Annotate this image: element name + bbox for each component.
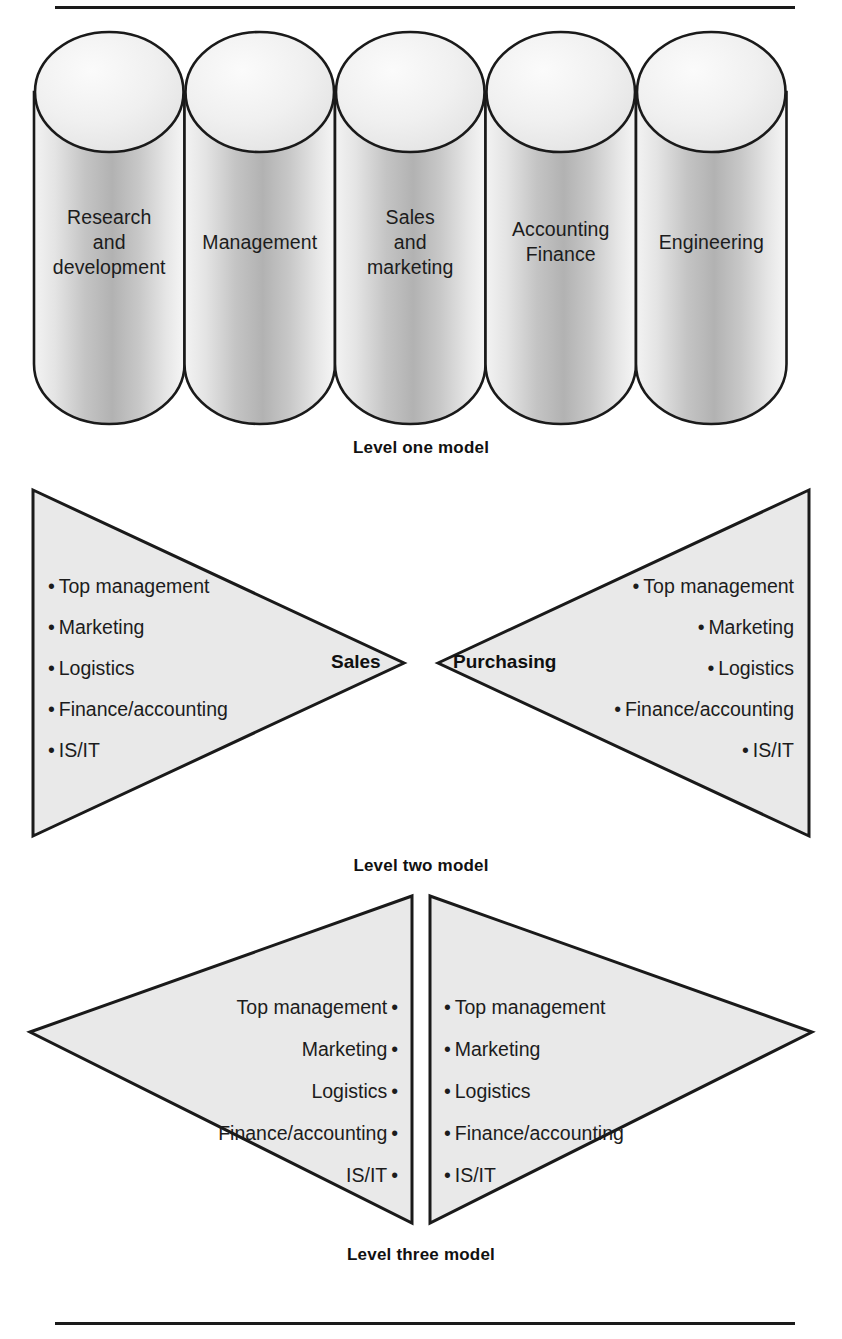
bullet-label: Logistics [718, 657, 794, 679]
bullet-item: IS/IT • [0, 1154, 398, 1196]
bullet-item: • IS/IT [444, 1154, 624, 1196]
bullet-label: IS/IT [455, 1164, 496, 1186]
bullet-dot-icon: • [698, 616, 705, 638]
bullet-item: Logistics • [0, 1070, 398, 1112]
bullet-dot-icon: • [48, 698, 55, 720]
top-divider-rule [55, 6, 795, 9]
level-two-diagram: • Top management• Marketing• Logistics• … [0, 484, 842, 844]
bullet-dot-icon: • [707, 657, 714, 679]
cylinder-top-ellipse [35, 32, 184, 152]
bullet-dot-icon: • [444, 1164, 451, 1186]
bullet-dot-icon: • [633, 575, 640, 597]
cylinder-label: AccountingFinance [489, 217, 634, 267]
bullet-label: Logistics [311, 1080, 387, 1102]
bullet-dot-icon: • [48, 575, 55, 597]
bullet-dot-icon: • [391, 1038, 398, 1060]
bullet-item: • Logistics [48, 648, 228, 689]
bullet-label: Logistics [59, 657, 135, 679]
level-two-purchasing-label: Purchasing [453, 651, 556, 673]
cylinder-top-ellipse [336, 32, 485, 152]
cylinder-label-line: Sales [338, 205, 483, 230]
cylinder-label-line: Accounting [489, 217, 634, 242]
bullet-dot-icon: • [444, 1122, 451, 1144]
bullet-item: • Top management [614, 566, 794, 607]
bullet-dot-icon: • [391, 996, 398, 1018]
cylinder-label: Salesandmarketing [338, 205, 483, 280]
level-two-sales-label: Sales [331, 651, 381, 673]
cylinder-label-line: and [338, 230, 483, 255]
bullet-dot-icon: • [48, 616, 55, 638]
cylinder-label-line: and [37, 230, 182, 255]
bullet-label: Finance/accounting [59, 698, 228, 720]
level-two-left-bullet-list: • Top management• Marketing• Logistics• … [48, 566, 228, 771]
bullet-label: Finance/accounting [218, 1122, 387, 1144]
level-three-left-bullet-list: Top management •Marketing •Logistics •Fi… [0, 986, 398, 1196]
bullet-label: IS/IT [753, 739, 794, 761]
bullet-label: Finance/accounting [455, 1122, 624, 1144]
bullet-dot-icon: • [48, 739, 55, 761]
cylinder-label-line: Research [37, 205, 182, 230]
bullet-label: IS/IT [346, 1164, 387, 1186]
level-one-caption: Level one model [0, 438, 842, 458]
bullet-label: IS/IT [59, 739, 100, 761]
bullet-item: • Marketing [614, 607, 794, 648]
bullet-item: • IS/IT [614, 730, 794, 771]
bullet-item: Finance/accounting • [0, 1112, 398, 1154]
bullet-dot-icon: • [614, 698, 621, 720]
cylinder-label: Researchanddevelopment [37, 205, 182, 280]
level-two-right-bullet-list: • Top management• Marketing• Logistics• … [614, 566, 794, 771]
bullet-dot-icon: • [444, 996, 451, 1018]
bullet-item: • Top management [444, 986, 624, 1028]
cylinder-label: Management [188, 230, 333, 255]
bullet-item: • Marketing [48, 607, 228, 648]
bullet-label: Marketing [302, 1038, 388, 1060]
bullet-dot-icon: • [444, 1080, 451, 1102]
bullet-dot-icon: • [391, 1122, 398, 1144]
cylinder-label-line: Management [188, 230, 333, 255]
cylinder-label-line: marketing [338, 255, 483, 280]
cylinder-label: Engineering [639, 230, 784, 255]
bullet-dot-icon: • [444, 1038, 451, 1060]
bullet-dot-icon: • [742, 739, 749, 761]
cylinder-label-line: development [37, 255, 182, 280]
bullet-label: Marketing [59, 616, 145, 638]
bullet-item: • IS/IT [48, 730, 228, 771]
bottom-divider-rule [55, 1322, 795, 1325]
bullet-item: • Finance/accounting [614, 689, 794, 730]
cylinder-label-line: Engineering [639, 230, 784, 255]
bullet-item: • Top management [48, 566, 228, 607]
level-one-diagram: ResearchanddevelopmentManagementSalesand… [0, 26, 842, 446]
bullet-label: Marketing [708, 616, 794, 638]
cylinder-label-line: Finance [489, 242, 634, 267]
bullet-dot-icon: • [391, 1080, 398, 1102]
bullet-label: Marketing [455, 1038, 541, 1060]
bullet-label: Finance/accounting [625, 698, 794, 720]
cylinder-top-ellipse [186, 32, 335, 152]
level-three-caption: Level three model [0, 1245, 842, 1265]
bullet-dot-icon: • [48, 657, 55, 679]
bullet-label: Logistics [455, 1080, 531, 1102]
level-three-right-bullet-list: • Top management• Marketing• Logistics• … [444, 986, 624, 1196]
bullet-item: • Finance/accounting [444, 1112, 624, 1154]
bullet-label: Top management [455, 996, 606, 1018]
bullet-item: • Marketing [444, 1028, 624, 1070]
bullet-item: • Logistics [444, 1070, 624, 1112]
bullet-item: • Logistics [614, 648, 794, 689]
cylinder-top-ellipse [637, 32, 786, 152]
level-three-diagram: Top management •Marketing •Logistics •Fi… [0, 880, 842, 1280]
level-two-caption: Level two model [0, 856, 842, 876]
bullet-dot-icon: • [391, 1164, 398, 1186]
bullet-item: Top management • [0, 986, 398, 1028]
bullet-label: Top management [237, 996, 388, 1018]
bullet-label: Top management [59, 575, 210, 597]
bullet-item: Marketing • [0, 1028, 398, 1070]
cylinder-top-ellipse [487, 32, 636, 152]
bullet-label: Top management [643, 575, 794, 597]
figure-page: ResearchanddevelopmentManagementSalesand… [0, 0, 842, 1339]
bullet-item: • Finance/accounting [48, 689, 228, 730]
